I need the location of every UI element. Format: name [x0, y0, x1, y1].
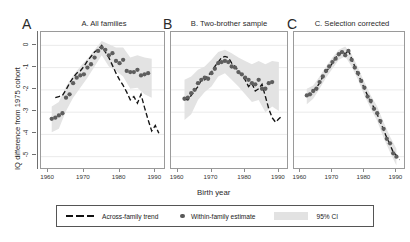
- x-tickmark: [331, 169, 332, 172]
- x-tick-label: 1970: [70, 173, 96, 180]
- y-tick-label-2: -2: [22, 81, 29, 95]
- legend-label-across-family-trend: Across-family trend: [102, 213, 158, 220]
- y-tickmark-4: [32, 132, 36, 133]
- x-tick-label: 1980: [231, 173, 257, 180]
- legend-item-95-ci: 95% CI: [274, 212, 339, 220]
- y-tickmark-1: [32, 66, 36, 67]
- x-tickmark: [154, 169, 155, 172]
- legend-item-across-family-trend: Across-family trend: [66, 213, 158, 220]
- panel-letter-c: C: [287, 17, 297, 31]
- x-tick-label: 1970: [198, 173, 224, 180]
- dashed-line-icon: [66, 213, 96, 220]
- plot-panel-all-families: [40, 31, 165, 169]
- legend-label-95-ci: 95% CI: [317, 213, 339, 220]
- x-tickmark: [278, 169, 279, 172]
- x-tickmark: [119, 169, 120, 172]
- legend-label-within-family-estimate: Within-family estimate: [191, 213, 256, 220]
- y-tick-label-4: -4: [22, 125, 29, 139]
- plot-panel-two-brother-sample: [170, 31, 288, 169]
- x-tickmark: [83, 169, 84, 172]
- confidence-band-swatch: [274, 212, 308, 220]
- x-tickmark: [363, 169, 364, 172]
- x-tickmark: [177, 169, 178, 172]
- x-tick-label: 1980: [350, 173, 376, 180]
- plot-panel-selection-corrected: [293, 31, 405, 169]
- x-tick-label: 1980: [106, 173, 132, 180]
- y-tickmark-0: [32, 44, 36, 45]
- y-tick-label-5: -5: [22, 147, 29, 161]
- x-tick-label: 1960: [34, 173, 60, 180]
- panel-title-b: B. Two-brother sample: [174, 20, 284, 28]
- x-tickmark: [211, 169, 212, 172]
- figure-root: A B C A. All families B. Two-brother sam…: [0, 0, 410, 242]
- x-tick-label: 1990: [382, 173, 408, 180]
- legend: Across-family trend Within-family estima…: [56, 205, 374, 227]
- panel-letter-a: A: [22, 17, 31, 31]
- y-tick-label-0: 0: [22, 37, 29, 51]
- panel-letter-b: B: [163, 17, 172, 31]
- x-tickmark: [47, 169, 48, 172]
- y-tick-label-3: -3: [22, 103, 29, 117]
- panel-title-c: C. Selection corrected: [298, 20, 406, 28]
- x-tick-label: 1970: [318, 173, 344, 180]
- x-tickmark: [299, 169, 300, 172]
- x-tick-label: 1960: [286, 173, 312, 180]
- x-tickmark: [244, 169, 245, 172]
- x-tickmark: [395, 169, 396, 172]
- y-tickmark-5: [32, 154, 36, 155]
- y-tickmark-3: [32, 110, 36, 111]
- y-tick-label-1: -1: [22, 59, 29, 73]
- panel-title-a: A. All families: [45, 20, 163, 28]
- x-tick-label: 1960: [164, 173, 190, 180]
- x-axis-label: Birth year: [197, 188, 230, 197]
- y-tickmark-2: [32, 88, 36, 89]
- dot-marker-icon: [180, 214, 185, 219]
- y-axis-spine: [37, 31, 39, 169]
- legend-item-within-family-estimate: Within-family estimate: [180, 213, 255, 220]
